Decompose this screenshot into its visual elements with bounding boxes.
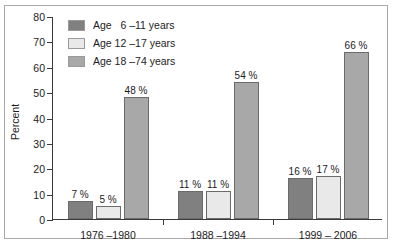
y-axis-tick-label: 50 bbox=[33, 88, 45, 99]
bar: 11 % bbox=[206, 191, 231, 219]
bar-value-label: 66 % bbox=[345, 41, 368, 51]
bar-value-label: 54 % bbox=[235, 71, 258, 81]
bar-value-label: 48 % bbox=[125, 86, 148, 96]
x-axis-group-separator-tick bbox=[163, 219, 164, 225]
legend-swatch bbox=[68, 38, 85, 49]
y-axis-title: Percent bbox=[9, 104, 21, 140]
chart-legend: Age 6 –11 yearsAge 12 –17 yearsAge 18 –7… bbox=[68, 19, 175, 67]
y-axis-tick-label: 20 bbox=[33, 164, 45, 175]
y-axis-tick bbox=[47, 220, 53, 221]
y-axis-tick-label: 30 bbox=[33, 139, 45, 150]
bar-value-label: 17 % bbox=[317, 165, 340, 175]
y-axis-tick bbox=[47, 17, 53, 18]
y-axis-tick-label: 70 bbox=[33, 37, 45, 48]
y-axis-tick bbox=[47, 119, 53, 120]
bar: 11 % bbox=[178, 191, 203, 219]
y-axis-tick-label: 40 bbox=[33, 113, 45, 124]
legend-item: Age 6 –11 years bbox=[68, 19, 175, 31]
bar: 48 % bbox=[124, 97, 149, 219]
bar: 66 % bbox=[344, 52, 369, 219]
x-axis-category-label: 1976 –1980 bbox=[80, 230, 135, 241]
y-axis-tick bbox=[47, 195, 53, 196]
bar: 7 % bbox=[68, 201, 93, 219]
y-axis-tick-label: 0 bbox=[39, 215, 45, 226]
x-axis-category-label: 1988 –1994 bbox=[190, 230, 245, 241]
chart-frame: Percent 01020304050607080 7 %5 %48 %11 %… bbox=[4, 5, 388, 239]
bar-value-label: 11 % bbox=[179, 180, 201, 190]
bar-value-label: 16 % bbox=[289, 167, 312, 177]
x-axis-group-separator-tick bbox=[273, 219, 274, 225]
y-axis-tick-label: 10 bbox=[33, 189, 45, 200]
y-axis-tick bbox=[47, 42, 53, 43]
bar: 5 % bbox=[96, 206, 121, 219]
x-axis-category-label: 1999 – 2006 bbox=[299, 230, 357, 241]
y-axis-tick bbox=[47, 144, 53, 145]
legend-label: Age 12 –17 years bbox=[93, 38, 175, 49]
legend-label: Age 6 –11 years bbox=[93, 20, 175, 31]
legend-swatch bbox=[68, 20, 85, 31]
bar-value-label: 7 % bbox=[71, 190, 88, 200]
y-axis-tick bbox=[47, 169, 53, 170]
bar: 54 % bbox=[234, 82, 259, 219]
y-axis-tick bbox=[47, 93, 53, 94]
bar: 16 % bbox=[288, 178, 313, 219]
y-axis-tick-label: 60 bbox=[33, 63, 45, 74]
y-axis-tick bbox=[47, 68, 53, 69]
legend-label: Age 18 –74 years bbox=[93, 56, 175, 67]
bar-value-label: 11 % bbox=[207, 180, 229, 190]
legend-swatch bbox=[68, 56, 85, 67]
legend-item: Age 18 –74 years bbox=[68, 55, 175, 67]
y-axis-tick-label: 80 bbox=[33, 12, 45, 23]
chart-figure: Percent 01020304050607080 7 %5 %48 %11 %… bbox=[0, 0, 393, 244]
bar-value-label: 5 % bbox=[99, 195, 116, 205]
bar: 17 % bbox=[316, 176, 341, 219]
legend-item: Age 12 –17 years bbox=[68, 37, 175, 49]
